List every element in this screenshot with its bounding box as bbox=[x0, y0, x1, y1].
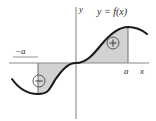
function-label: y = f(x) bbox=[96, 6, 128, 18]
x-axis-label: x bbox=[139, 66, 144, 76]
negative-bound-label: −a bbox=[15, 46, 26, 56]
y-axis-label: y bbox=[78, 4, 83, 14]
integral-sign-areas-figure: y x a −a y = f(x) bbox=[0, 0, 156, 121]
positive-bound-label: a bbox=[124, 66, 129, 76]
figure-canvas: y x a −a y = f(x) bbox=[0, 0, 156, 121]
